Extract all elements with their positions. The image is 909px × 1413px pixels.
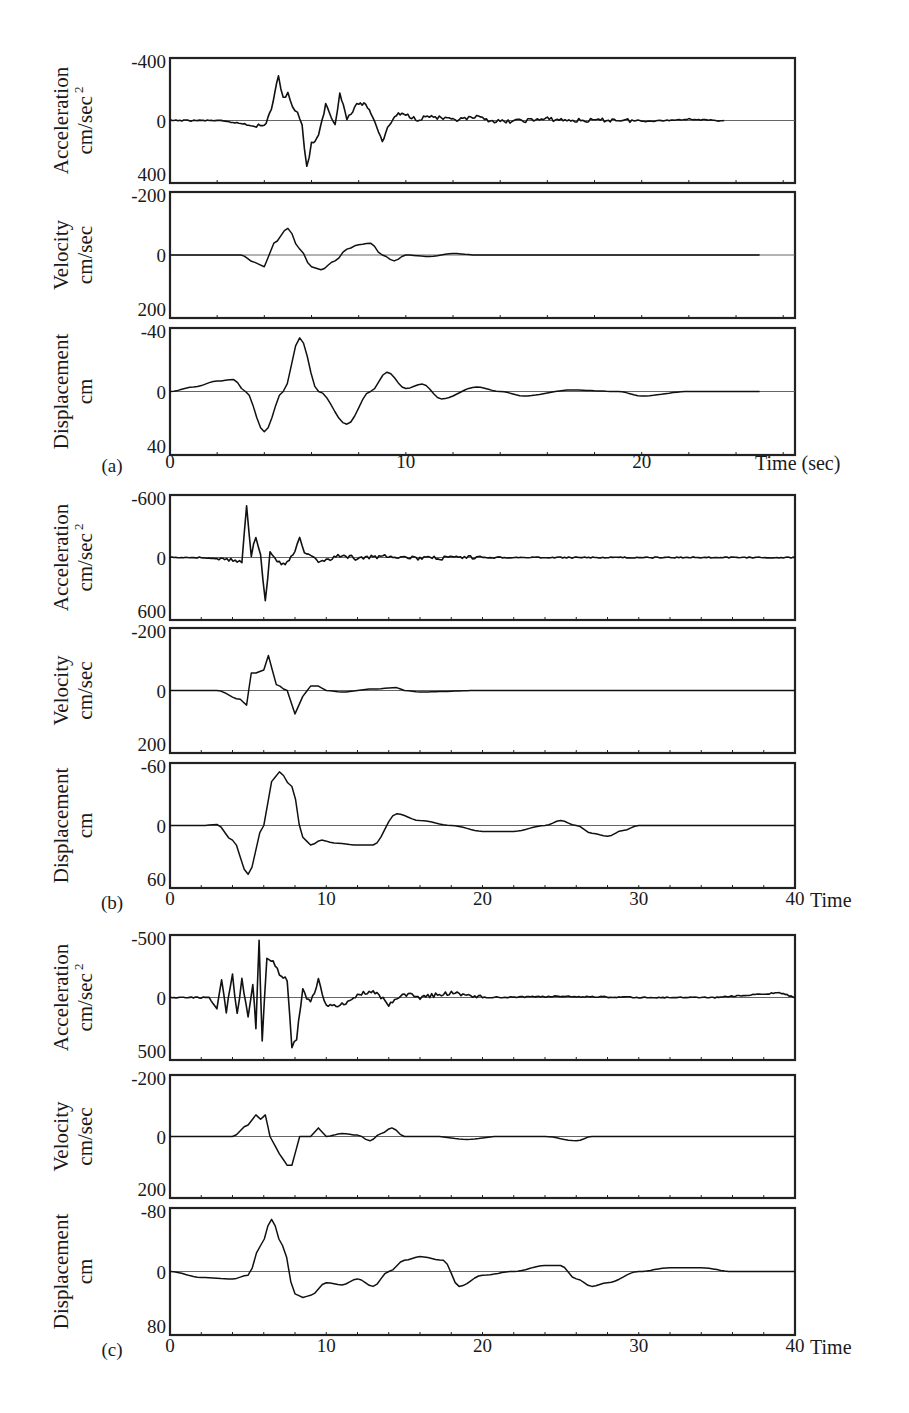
y-tick-label-bottom: 600: [138, 601, 167, 622]
y-tick-label-top: -80: [141, 1201, 166, 1222]
y-tick-label-mid: 0: [157, 1127, 167, 1148]
x-tick-label: 0: [165, 451, 175, 472]
y-axis-quantity: Acceleration: [49, 503, 73, 611]
y-tick-label-top: -600: [131, 488, 166, 509]
x-axis-title: Time (sec): [755, 452, 840, 475]
y-axis-label: Displacementcm: [49, 334, 97, 450]
y-axis-quantity: Velocity: [49, 1101, 73, 1171]
data-trace: [170, 506, 795, 601]
y-tick-label-top: -200: [131, 185, 166, 206]
y-axis-quantity: Displacement: [49, 768, 73, 884]
y-tick-label-top: -200: [131, 1068, 166, 1089]
y-tick-label-bottom: 200: [138, 299, 167, 320]
x-tick-label: 40: [786, 1335, 805, 1356]
y-axis-unit: cm/sec 2: [71, 86, 97, 154]
y-axis-unit: cm/sec 2: [71, 523, 97, 591]
x-tick-label: 40: [786, 888, 805, 909]
y-axis-quantity: Velocity: [49, 655, 73, 725]
x-tick-label: 0: [165, 1335, 175, 1356]
y-axis-unit: cm/sec: [73, 226, 97, 284]
y-axis-unit: cm: [73, 813, 97, 839]
y-tick-label-bottom: 200: [138, 1179, 167, 1200]
y-tick-label-mid: 0: [157, 816, 167, 837]
data-trace: [170, 1219, 795, 1297]
x-tick-label: 20: [473, 888, 492, 909]
y-tick-label-top: -40: [141, 321, 166, 342]
figure-group-c: -5000500Accelerationcm/sec 2-2000200Velo…: [49, 928, 852, 1361]
y-tick-label-bottom: 200: [138, 734, 167, 755]
panel-a-displacement: -40040Displacementcm: [49, 321, 795, 457]
x-tick-label: 20: [473, 1335, 492, 1356]
panel-c-velocity: -2000200Velocitycm/sec: [49, 1068, 795, 1200]
y-tick-label-mid: 0: [157, 1262, 167, 1283]
data-trace: [170, 338, 760, 432]
data-trace: [170, 772, 795, 874]
y-tick-label-mid: 0: [157, 681, 167, 702]
x-axis-c: 010203040Time: [165, 1335, 851, 1358]
y-axis-label: Velocitycm/sec: [49, 220, 97, 290]
y-tick-label-mid: 0: [157, 111, 167, 132]
y-tick-label-mid: 0: [157, 548, 167, 569]
y-axis-quantity: Acceleration: [49, 943, 73, 1051]
y-tick-label-mid: 0: [157, 245, 167, 266]
group-label: (b): [101, 892, 123, 914]
panel-b-velocity: -2000200Velocitycm/sec: [49, 621, 795, 755]
y-tick-label-bottom: 60: [147, 869, 166, 890]
group-label: (a): [101, 455, 122, 477]
x-tick-label: 10: [396, 451, 415, 472]
panel-b-displacement: -60060Displacementcm: [49, 756, 795, 890]
y-tick-label-mid: 0: [157, 988, 167, 1009]
x-axis-title: Time: [810, 889, 852, 911]
x-tick-label: 0: [165, 888, 175, 909]
figure-group-a: -4000400Accelerationcm/sec 2-2000200Velo…: [49, 51, 840, 477]
panel-a-acceleration: -4000400Accelerationcm/sec 2: [49, 51, 795, 185]
x-tick-label: 10: [317, 1335, 336, 1356]
y-axis-quantity: Acceleration: [49, 66, 73, 174]
panel-a-velocity: -2000200Velocitycm/sec: [49, 185, 795, 320]
y-tick-label-top: -60: [141, 756, 166, 777]
x-axis-title: Time: [810, 1336, 852, 1358]
y-tick-label-mid: 0: [157, 382, 167, 403]
group-label: (c): [101, 1339, 122, 1361]
y-tick-label-bottom: 400: [138, 164, 167, 185]
y-tick-label-top: -500: [131, 928, 166, 949]
panel-c-displacement: -80080Displacementcm: [49, 1201, 795, 1337]
y-axis-label: Displacementcm: [49, 768, 97, 884]
y-axis-unit: cm/sec: [73, 661, 97, 719]
x-tick-label: 30: [629, 1335, 648, 1356]
y-tick-label-bottom: 500: [138, 1041, 167, 1062]
x-tick-label: 30: [629, 888, 648, 909]
y-axis-unit: cm: [73, 1259, 97, 1285]
x-axis-b: 010203040Time: [165, 888, 851, 911]
data-trace: [170, 76, 724, 167]
y-axis-label: Accelerationcm/sec 2: [49, 943, 97, 1051]
panel-b-acceleration: -6000600Accelerationcm/sec 2: [49, 488, 795, 622]
y-axis-label: Accelerationcm/sec 2: [49, 503, 97, 611]
panel-c-acceleration: -5000500Accelerationcm/sec 2: [49, 928, 795, 1062]
data-trace: [170, 1115, 795, 1165]
data-trace: [170, 228, 760, 269]
y-axis-label: Velocitycm/sec: [49, 1101, 97, 1171]
y-tick-label-top: -200: [131, 621, 166, 642]
data-trace: [170, 655, 795, 714]
figure-canvas: -4000400Accelerationcm/sec 2-2000200Velo…: [0, 0, 909, 1413]
y-axis-quantity: Velocity: [49, 220, 73, 290]
y-axis-label: Accelerationcm/sec 2: [49, 66, 97, 174]
y-axis-label: Velocitycm/sec: [49, 655, 97, 725]
y-tick-label-bottom: 80: [147, 1316, 166, 1337]
y-axis-quantity: Displacement: [49, 1214, 73, 1330]
x-tick-label: 20: [632, 451, 651, 472]
y-tick-label-bottom: 40: [147, 436, 166, 457]
x-tick-label: 10: [317, 888, 336, 909]
figure-group-b: -6000600Accelerationcm/sec 2-2000200Velo…: [49, 488, 852, 914]
y-axis-quantity: Displacement: [49, 334, 73, 450]
y-axis-label: Displacementcm: [49, 1214, 97, 1330]
y-axis-unit: cm: [73, 379, 97, 405]
data-trace: [170, 940, 795, 1047]
y-tick-label-top: -400: [131, 51, 166, 72]
y-axis-unit: cm/sec 2: [71, 963, 97, 1031]
y-axis-unit: cm/sec: [73, 1107, 97, 1165]
